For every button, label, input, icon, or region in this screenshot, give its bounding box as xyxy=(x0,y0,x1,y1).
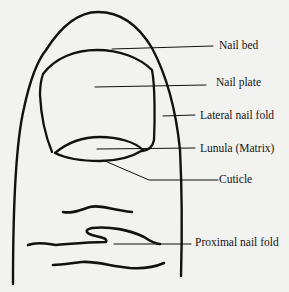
label-lunula: Lunula (Matrix) xyxy=(200,142,274,154)
leader-nail-bed xyxy=(112,46,213,49)
leader-lateral-nail-fold xyxy=(163,115,195,116)
label-proximal-nail-fold: Proximal nail fold xyxy=(195,236,279,248)
skin-wrinkle-upper xyxy=(63,206,132,212)
skin-wrinkle-middle xyxy=(28,227,160,245)
label-nail-bed: Nail bed xyxy=(219,39,258,51)
nail-anatomy-diagram: Nail bed Nail plate Lateral nail fold Lu… xyxy=(0,0,289,292)
label-cuticle: Cuticle xyxy=(219,173,252,185)
label-nail-plate: Nail plate xyxy=(216,76,261,88)
leader-nail-plate xyxy=(95,85,206,87)
label-lateral-nail-fold: Lateral nail fold xyxy=(200,109,274,121)
leader-cuticle xyxy=(105,161,218,180)
skin-wrinkle-lower xyxy=(53,262,164,268)
